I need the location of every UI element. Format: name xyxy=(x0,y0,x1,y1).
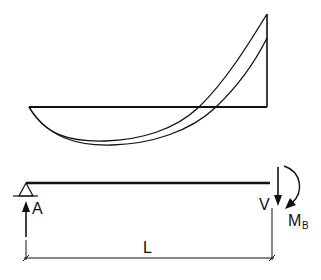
moment-curve-inner xyxy=(29,38,267,145)
beam xyxy=(13,166,300,261)
beam-diagram: A V M B L xyxy=(0,0,321,280)
label-moment-sub-b: B xyxy=(302,220,309,231)
moment-b-arc xyxy=(284,166,300,203)
moment-curve-outer xyxy=(29,14,267,141)
label-support-a: A xyxy=(32,200,43,217)
label-length-l: L xyxy=(143,239,152,256)
reaction-a-arrow-head-icon xyxy=(22,201,30,212)
moment-diagram xyxy=(29,14,267,145)
label-moment-m: M xyxy=(288,212,301,229)
shear-v-arrow-head-icon xyxy=(274,195,282,206)
pin-support-icon xyxy=(19,183,33,196)
label-shear-v: V xyxy=(259,196,270,213)
